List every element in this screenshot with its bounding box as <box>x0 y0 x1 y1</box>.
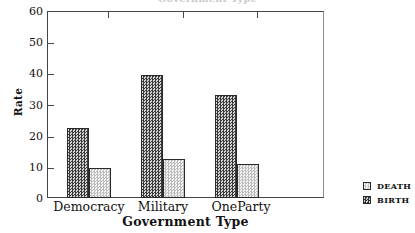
chart-title-text: Government Type <box>0 0 415 4</box>
bar-democracy-death <box>89 168 111 198</box>
legend-item-death: DEATH <box>363 180 415 192</box>
x-tick-label-oneparty: OneParty <box>194 199 288 215</box>
bars-layer <box>47 11 324 198</box>
legend-swatch-death-icon <box>363 182 371 190</box>
y-tick-label-50: 50 <box>1 37 43 48</box>
legend-swatch-birth-icon <box>363 196 371 204</box>
bar-military-death <box>163 159 185 198</box>
legend-item-birth: BIRTH <box>363 194 415 206</box>
chart-title-clipped: Government Type <box>0 0 415 5</box>
y-tick-label-10: 10 <box>1 162 43 173</box>
x-tick-label-military: Military <box>122 199 204 215</box>
legend-label-death: DEATH <box>377 181 411 191</box>
bar-military-birth <box>141 75 163 198</box>
bar-democracy-birth <box>67 128 89 198</box>
chart-legend: DEATH BIRTH <box>363 180 415 208</box>
y-tick-label-20: 20 <box>1 131 43 142</box>
x-axis-title: Government Type <box>47 214 324 229</box>
legend-label-birth: BIRTH <box>377 195 410 205</box>
y-tick-label-60: 60 <box>1 6 43 17</box>
bar-chart: Government Type 60 50 40 30 20 10 0 Rate <box>0 0 415 233</box>
bar-oneparty-birth <box>215 95 237 198</box>
bar-oneparty-death <box>237 164 259 198</box>
y-axis-title: Rate <box>12 72 24 132</box>
